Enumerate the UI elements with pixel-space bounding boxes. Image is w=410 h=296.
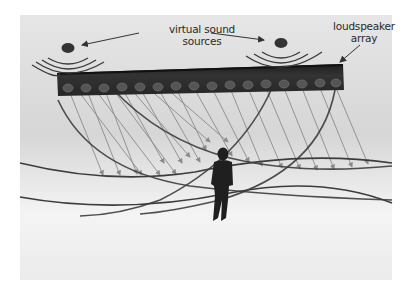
- label-line: virtual sound: [150, 23, 254, 35]
- source-dot-icon: [62, 43, 75, 53]
- label-line: array: [326, 32, 402, 44]
- virtual-sources-label: virtual sound sources: [150, 23, 254, 47]
- floor-background: [20, 15, 392, 280]
- source-dot-icon: [275, 38, 288, 48]
- label-line: loudspeaker: [326, 20, 402, 32]
- wave-field-synthesis-diagram: virtual sound sources loudspeaker array: [0, 0, 410, 296]
- label-line: sources: [150, 35, 254, 47]
- loudspeaker-array-label: loudspeaker array: [326, 20, 402, 44]
